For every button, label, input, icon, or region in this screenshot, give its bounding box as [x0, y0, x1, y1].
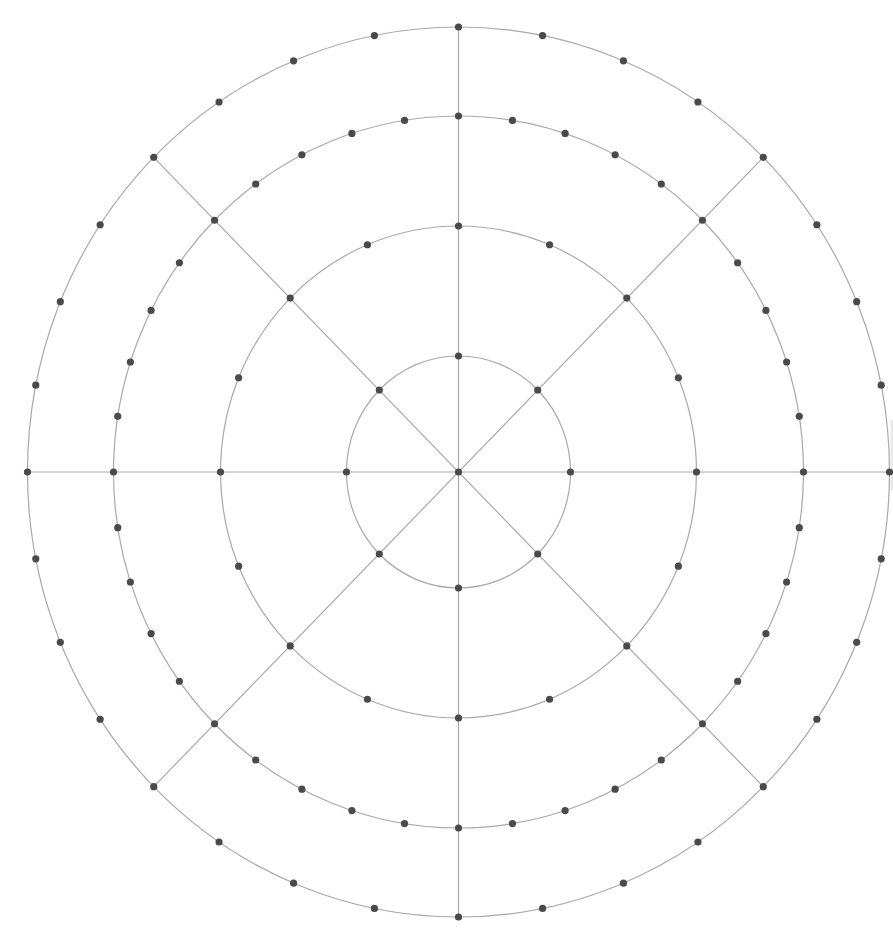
ring-4-node [813, 716, 820, 723]
ring-3-node [401, 820, 408, 827]
ring-2-node [455, 714, 462, 721]
ring-3-node [401, 117, 408, 124]
ring-3-node [762, 630, 769, 637]
ring-4-node [371, 32, 378, 39]
ring-3-node [252, 756, 259, 763]
ring-4-node [215, 838, 222, 845]
ring-3-node [509, 820, 516, 827]
ring-1-node [455, 352, 462, 359]
ring-3-node [734, 259, 741, 266]
ring-4-node [853, 639, 860, 646]
ring-2-node [546, 241, 553, 248]
ring-3-node [114, 524, 121, 531]
ring-4-node [760, 154, 767, 161]
ring-4-node [694, 838, 701, 845]
ring-2-node [623, 642, 630, 649]
ring-4-node [539, 32, 546, 39]
ring-3-node [148, 630, 155, 637]
ring-1-node [343, 468, 350, 475]
ring-3-node [762, 307, 769, 314]
ring-3-node [127, 358, 134, 365]
ring-1-node [534, 386, 541, 393]
ring-2-node [675, 374, 682, 381]
ring-4-node [620, 880, 627, 887]
ring-2-node [623, 294, 630, 301]
ring-3-node [562, 130, 569, 137]
ring-3-node [783, 358, 790, 365]
ring-4-node [455, 23, 462, 30]
polar-grid-diagram [0, 0, 893, 941]
ring-3-node [348, 130, 355, 137]
ring-3-node [455, 112, 462, 119]
ring-1-node [376, 386, 383, 393]
ring-1-node [534, 550, 541, 557]
ring-4-node [539, 905, 546, 912]
ring-2-node [235, 563, 242, 570]
ring-4-node [57, 639, 64, 646]
ring-1-node [455, 584, 462, 591]
ring-4-node [150, 783, 157, 790]
ring-4-node [813, 221, 820, 228]
ring-3-node [612, 786, 619, 793]
center-node [455, 468, 462, 475]
ring-3-node [455, 824, 462, 831]
ring-3-node [110, 468, 117, 475]
ring-3-node [176, 678, 183, 685]
ring-1-node [567, 468, 574, 475]
ring-1-node [376, 550, 383, 557]
ring-4-node [57, 298, 64, 305]
ring-3-node [562, 807, 569, 814]
ring-3-node [699, 720, 706, 727]
ring-3-node [509, 117, 516, 124]
ring-4-node [97, 716, 104, 723]
ring-4-node [760, 783, 767, 790]
ring-3-node [800, 468, 807, 475]
ring-4-node [694, 98, 701, 105]
ring-4-node [290, 880, 297, 887]
ring-3-node [298, 151, 305, 158]
ring-3-node [127, 578, 134, 585]
ring-3-node [796, 413, 803, 420]
ring-4-node [620, 57, 627, 64]
ring-4-node [24, 468, 31, 475]
ring-2-node [235, 374, 242, 381]
ring-3-node [252, 180, 259, 187]
ring-4-node [32, 555, 39, 562]
ring-4-node [878, 382, 885, 389]
ring-2-node [364, 696, 371, 703]
ring-3-node [114, 413, 121, 420]
ring-3-node [796, 524, 803, 531]
edge-shadow [889, 420, 893, 490]
ring-3-node [734, 678, 741, 685]
ring-2-node [287, 642, 294, 649]
ring-4-node [97, 221, 104, 228]
ring-3-node [148, 307, 155, 314]
ring-3-node [612, 151, 619, 158]
ring-4-node [853, 298, 860, 305]
ring-3-node [658, 756, 665, 763]
ring-3-node [658, 180, 665, 187]
ring-2-node [546, 696, 553, 703]
ring-4-node [215, 98, 222, 105]
ring-2-node [287, 294, 294, 301]
ring-3-node [783, 578, 790, 585]
ring-3-node [298, 786, 305, 793]
ring-4-node [371, 905, 378, 912]
ring-4-node [150, 154, 157, 161]
ring-3-node [176, 259, 183, 266]
ring-3-node [699, 217, 706, 224]
ring-4-node [455, 913, 462, 920]
ring-3-node [211, 217, 218, 224]
ring-3-node [348, 807, 355, 814]
ring-4-node [32, 382, 39, 389]
ring-2-node [675, 563, 682, 570]
ring-2-node [217, 468, 224, 475]
ring-4-node [878, 555, 885, 562]
ring-4-node [290, 57, 297, 64]
ring-2-node [364, 241, 371, 248]
ring-2-node [455, 222, 462, 229]
ring-3-node [211, 720, 218, 727]
ring-2-node [693, 468, 700, 475]
